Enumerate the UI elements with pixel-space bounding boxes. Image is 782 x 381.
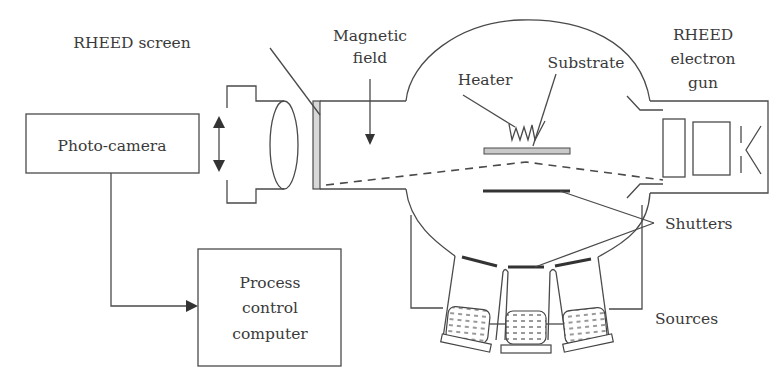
computer-label-line2: control bbox=[242, 299, 298, 317]
double-arrow-icon bbox=[213, 116, 225, 172]
computer-label-line3: computer bbox=[232, 325, 308, 343]
electron-beam-path bbox=[326, 162, 663, 185]
process-control-computer-box: Process control computer bbox=[198, 249, 341, 366]
camera-to-computer-arrow bbox=[111, 173, 198, 312]
rheed-gun-label-line2: electron bbox=[671, 50, 736, 68]
shutters bbox=[462, 191, 654, 267]
rheed-screen-label: RHEED screen bbox=[73, 34, 191, 52]
camera-lens bbox=[227, 86, 298, 203]
mbe-rheed-diagram: Photo-camera Process control computer RH… bbox=[0, 0, 782, 381]
rheed-electron-gun bbox=[627, 96, 761, 198]
heater bbox=[463, 95, 545, 140]
computer-label-line1: Process bbox=[240, 274, 301, 292]
effusion-sources bbox=[441, 256, 614, 353]
photo-camera-box: Photo-camera bbox=[26, 114, 199, 173]
sources-label: Sources bbox=[655, 310, 718, 328]
substrate-label: Substrate bbox=[548, 54, 625, 72]
photo-camera-label: Photo-camera bbox=[58, 137, 167, 155]
heater-label: Heater bbox=[458, 71, 513, 89]
magnetic-field-label-line2: field bbox=[353, 49, 387, 67]
shutters-label: Shutters bbox=[665, 215, 733, 233]
magnetic-field-label-line1: Magnetic bbox=[333, 27, 407, 45]
rheed-gun-label-line3: gun bbox=[688, 74, 718, 92]
magnetic-field-arrow bbox=[365, 79, 375, 145]
rheed-gun-label-line1: RHEED bbox=[673, 26, 733, 44]
